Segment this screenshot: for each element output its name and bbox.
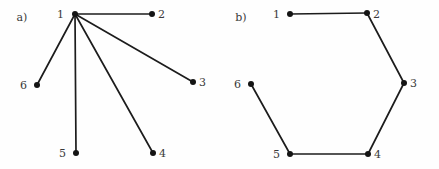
edge-1-2 <box>290 13 367 14</box>
node-4[interactable] <box>365 151 371 157</box>
node-label-1: 1 <box>273 8 280 21</box>
panel-a: 123456a) <box>17 8 206 160</box>
node-5[interactable] <box>73 150 79 156</box>
node-label-6: 6 <box>234 78 241 91</box>
edge-2-3 <box>367 13 404 83</box>
edge-3-4 <box>368 83 404 154</box>
node-label-4: 4 <box>374 148 381 161</box>
node-1[interactable] <box>72 11 78 17</box>
node-label-2: 2 <box>373 8 380 21</box>
node-5[interactable] <box>287 151 293 157</box>
node-2[interactable] <box>149 11 155 17</box>
edge-1-5 <box>75 14 76 153</box>
node-6[interactable] <box>34 82 40 88</box>
panel-b-caption: b) <box>235 11 246 24</box>
node-3[interactable] <box>401 80 407 86</box>
edge-1-6 <box>37 14 75 85</box>
node-label-5: 5 <box>273 148 280 161</box>
node-label-1: 1 <box>57 8 64 21</box>
node-label-3: 3 <box>199 76 206 89</box>
edge-5-6 <box>251 84 290 154</box>
node-label-6: 6 <box>20 79 27 92</box>
panel-b: 123456b) <box>234 8 417 161</box>
graph-figure: 123456a)123456b) <box>0 0 439 169</box>
node-4[interactable] <box>150 150 156 156</box>
node-label-2: 2 <box>158 8 165 21</box>
edge-1-4 <box>75 14 153 153</box>
node-label-3: 3 <box>410 77 417 90</box>
graph-canvas: 123456a)123456b) <box>0 0 439 169</box>
node-2[interactable] <box>364 10 370 16</box>
node-3[interactable] <box>190 79 196 85</box>
edge-1-3 <box>75 14 193 82</box>
node-label-4: 4 <box>159 147 166 160</box>
node-1[interactable] <box>287 11 293 17</box>
node-label-5: 5 <box>59 147 66 160</box>
panel-a-caption: a) <box>17 11 28 24</box>
panels-root: 123456a)123456b) <box>17 8 417 161</box>
node-6[interactable] <box>248 81 254 87</box>
